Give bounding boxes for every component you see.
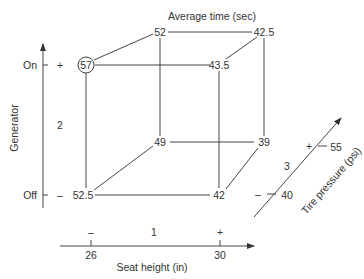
corner-back-bottom-left: 49 — [154, 136, 166, 148]
tire-pressure-low-sign: – — [255, 188, 261, 200]
tire-pressure-factor-number: 3 — [284, 160, 290, 172]
corner-front-top-left: 57 — [80, 59, 92, 71]
seat-height-axis — [60, 240, 254, 246]
corner-front-bottom-right: 42 — [213, 189, 225, 201]
corner-back-top-right: 42.5 — [254, 26, 275, 38]
corner-back-top-left: 52 — [154, 26, 166, 38]
corner-front-bottom-left: 52.5 — [73, 189, 94, 201]
tire-pressure-high-sign: + — [306, 140, 312, 152]
generator-low-label: Off — [23, 189, 37, 201]
seat-height-factor-number: 1 — [151, 226, 157, 238]
tire-pressure-high-label: 55 — [330, 141, 342, 153]
cube-plot: Average time (sec) 57 43.5 52.5 42 52 42… — [0, 0, 364, 279]
generator-high-label: On — [23, 59, 37, 71]
seat-height-axis-label: Seat height (in) — [116, 261, 187, 273]
seat-height-high-sign: + — [217, 226, 223, 238]
generator-low-sign: – — [57, 189, 63, 201]
chart-title: Average time (sec) — [168, 10, 256, 22]
generator-axis-label: Generator — [8, 104, 20, 152]
tire-pressure-low-label: 40 — [281, 189, 293, 201]
tire-pressure-axis — [254, 118, 341, 217]
cube-edges — [86, 32, 264, 195]
seat-height-low-sign: – — [88, 226, 94, 238]
seat-height-high-label: 30 — [214, 249, 226, 261]
corner-front-top-right: 43.5 — [209, 59, 230, 71]
generator-high-sign: + — [57, 59, 63, 71]
generator-axis — [43, 44, 48, 208]
seat-height-low-label: 26 — [85, 249, 97, 261]
corner-back-bottom-right: 39 — [258, 136, 270, 148]
generator-factor-number: 2 — [57, 119, 63, 131]
